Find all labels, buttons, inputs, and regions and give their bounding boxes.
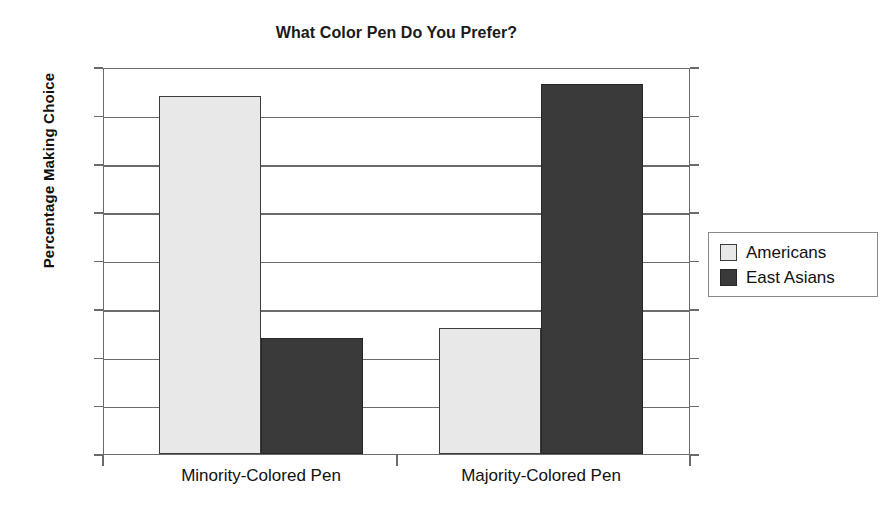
legend-label: East Asians [746, 268, 835, 288]
x-category-label: Minority-Colored Pen [181, 466, 341, 486]
y-tick-mark [94, 67, 103, 69]
y-tick-mark [94, 164, 103, 166]
y-tick-mark [94, 116, 103, 118]
chart-legend: AmericansEast Asians [708, 232, 878, 297]
legend-swatch-icon [720, 269, 737, 286]
y-tick-mark [690, 358, 699, 360]
y-tick-mark [690, 261, 699, 263]
x-axis-tick [102, 455, 104, 466]
y-tick-mark [690, 164, 699, 166]
y-tick-mark [94, 406, 103, 408]
bars-layer [104, 69, 689, 454]
y-tick-mark [690, 406, 699, 408]
bar-east-asians-0 [261, 338, 363, 454]
bar-east-asians-1 [541, 84, 643, 454]
x-category-label: Majority-Colored Pen [461, 466, 621, 486]
y-tick-mark [690, 212, 699, 214]
y-tick-mark [690, 454, 699, 456]
bar-americans-0 [159, 96, 261, 454]
y-tick-mark [94, 212, 103, 214]
bar-americans-1 [439, 328, 541, 454]
chart-figure: What Color Pen Do You Prefer? Percentage… [0, 0, 892, 514]
x-axis-tick [689, 455, 691, 466]
legend-item: Americans [720, 240, 877, 265]
chart-title: What Color Pen Do You Prefer? [103, 24, 690, 42]
x-axis-tick [396, 455, 398, 466]
legend-item: East Asians [720, 265, 877, 290]
legend-swatch-icon [720, 244, 737, 261]
y-tick-mark [690, 67, 699, 69]
y-tick-mark [94, 358, 103, 360]
legend-label: Americans [746, 243, 826, 263]
y-axis-title: Percentage Making Choice [40, 21, 57, 321]
y-tick-mark [94, 309, 103, 311]
plot-area [103, 68, 690, 455]
y-tick-mark [94, 261, 103, 263]
y-tick-mark [690, 116, 699, 118]
y-tick-mark [690, 309, 699, 311]
